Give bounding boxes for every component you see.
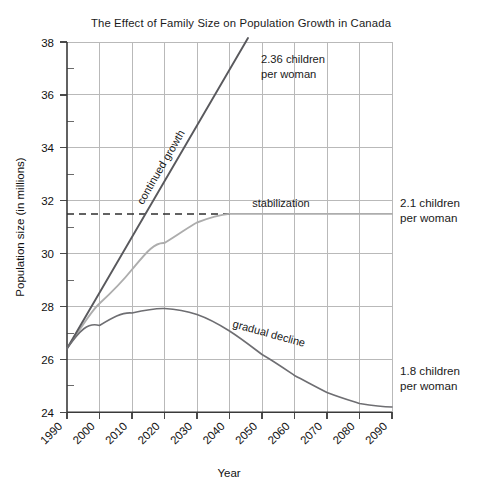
x-axis-title: Year: [217, 467, 240, 479]
ytick-label-38: 38: [41, 37, 54, 49]
xtick-label-2050: 2050: [233, 420, 260, 447]
xtick-label-2080: 2080: [330, 420, 357, 447]
xtick-label-2060: 2060: [265, 420, 292, 447]
xtick-label-1990: 1990: [38, 420, 65, 447]
xtick-label-2010: 2010: [103, 420, 130, 447]
ytick-label-30: 30: [41, 248, 54, 260]
xtick-label-2020: 2020: [135, 420, 162, 447]
xtick-label-2030: 2030: [168, 420, 195, 447]
chart-title: The Effect of Family Size on Population …: [91, 17, 392, 29]
continued-growth-curve-label: continued growth: [134, 128, 187, 206]
ytick-label-34: 34: [41, 142, 54, 154]
chart-figure: The Effect of Family Size on Population …: [0, 0, 483, 492]
population-growth-chart: The Effect of Family Size on Population …: [0, 0, 483, 492]
continued-growth-series-line: [67, 38, 248, 349]
stabilization-rate-line2: per woman: [400, 211, 457, 224]
decline-rate-line1: 1.8 children: [400, 364, 460, 377]
y-axis-title: Population size (in millions): [14, 157, 26, 297]
ytick-label-24: 24: [41, 407, 54, 419]
y-tick-labels: 38 36 34 32 30 28 26 24: [41, 37, 54, 419]
vertical-gridlines: [100, 42, 393, 412]
x-tick-labels: 1990 2000 2010 2020 2030 2040 2050 2060 …: [38, 420, 390, 447]
ytick-label-26: 26: [41, 354, 54, 366]
ytick-label-32: 32: [41, 195, 54, 207]
x-major-ticks: [67, 412, 392, 419]
growth-rate-line1: 2.36 children: [261, 53, 325, 65]
xtick-label-2090: 2090: [363, 420, 390, 447]
ytick-label-36: 36: [41, 89, 54, 101]
ytick-label-28: 28: [41, 301, 54, 313]
decline-rate-annotation: 1.8 children per woman: [400, 364, 460, 392]
growth-rate-line2: per woman: [261, 68, 316, 80]
y-major-ticks: [60, 42, 67, 412]
stabilization-curve-label: stabilization: [252, 197, 309, 209]
decline-rate-line2: per woman: [400, 379, 457, 392]
stabilization-rate-line1: 2.1 children: [400, 196, 460, 209]
gradual-decline-curve-label: gradual decline: [232, 317, 307, 349]
xtick-label-2040: 2040: [200, 420, 227, 447]
stabilization-rate-annotation: 2.1 children per woman: [400, 196, 460, 224]
growth-rate-annotation: 2.36 children per woman: [261, 53, 325, 80]
xtick-label-2070: 2070: [298, 420, 325, 447]
xtick-label-2000: 2000: [70, 420, 97, 447]
